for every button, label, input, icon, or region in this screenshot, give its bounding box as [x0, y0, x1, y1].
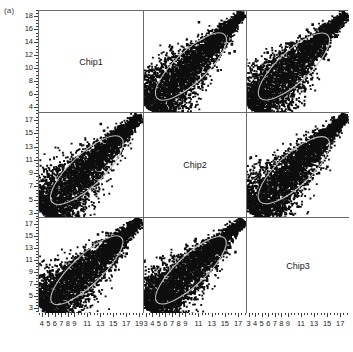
x-tick-label: 13 — [310, 320, 318, 328]
x-tick-label: 4 — [150, 320, 154, 328]
x-tick-label: 7 — [170, 320, 174, 328]
diagonal-panel-label: Chip3 — [247, 218, 349, 313]
x-tick-label: 7 — [273, 320, 277, 328]
y-tick-label: 5 — [29, 293, 33, 301]
x-tick-label: 17 — [336, 320, 344, 328]
panel-tag: (a) — [4, 6, 14, 15]
scatter-panel-chip1-vs-chip3 — [39, 218, 144, 313]
x-tick-label: 4 — [40, 320, 44, 328]
scatter-panel-chip2-vs-chip1 — [144, 11, 247, 113]
y-tick-label: 11 — [25, 257, 33, 265]
x-tick-label: 11 — [195, 320, 203, 328]
y-tick-label: 15 — [25, 232, 33, 240]
figure-root: (a) 468101214161835791113151735791113151… — [0, 0, 353, 352]
y-tick-label: 11 — [25, 156, 33, 164]
y-tick-label: 4 — [29, 103, 33, 111]
y-tick-label: 12 — [25, 51, 33, 59]
y-tick-label: 6 — [29, 90, 33, 98]
scatter-panel-chip3-vs-chip2 — [247, 113, 349, 218]
scatterplot-matrix: Chip1Chip2Chip3 — [38, 10, 348, 312]
diagonal-panel-chip3: Chip3 — [247, 218, 349, 313]
x-tick-label: 9 — [72, 320, 76, 328]
x-tick-label: 5 — [260, 320, 264, 328]
x-tick-label: 9 — [183, 320, 187, 328]
y-tick-label: 5 — [29, 196, 33, 204]
y-tick-label: 3 — [29, 305, 33, 313]
y-tick-label: 16 — [25, 26, 33, 34]
diagonal-panel-chip2: Chip2 — [144, 113, 247, 218]
x-tick-label: 6 — [266, 320, 270, 328]
y-tick-label: 7 — [29, 183, 33, 191]
x-tick-label: 15 — [221, 320, 229, 328]
x-tick-label: 7 — [59, 320, 63, 328]
x-tick-label: 9 — [286, 320, 290, 328]
y-tick-label: 15 — [25, 130, 33, 138]
y-tick-label: 17 — [25, 116, 33, 124]
y-tick-label: 3 — [29, 209, 33, 217]
x-tick-label: 3 — [144, 320, 148, 328]
diagonal-panel-label: Chip1 — [39, 11, 143, 112]
x-tick-label: 17 — [122, 320, 130, 328]
point-cloud — [39, 218, 143, 313]
point-cloud — [144, 218, 246, 313]
y-tick-label: 14 — [25, 39, 33, 47]
x-tick-label: 8 — [279, 320, 283, 328]
x-tick-label: 17 — [234, 320, 242, 328]
scatter-panel-chip3-vs-chip1 — [247, 11, 349, 113]
x-tick-label: 15 — [323, 320, 331, 328]
y-tick-label: 13 — [25, 143, 33, 151]
x-tick-label: 5 — [157, 320, 161, 328]
x-tick-label: 6 — [163, 320, 167, 328]
scatter-panel-chip2-vs-chip3 — [144, 218, 247, 313]
point-cloud — [144, 11, 246, 112]
point-cloud — [39, 113, 143, 217]
x-tick-label: 13 — [207, 320, 215, 328]
x-tick-label: 3 — [247, 320, 251, 328]
x-tick-label: 6 — [53, 320, 57, 328]
y-tick-label: 9 — [29, 169, 33, 177]
y-tick-label: 17 — [25, 220, 33, 228]
y-tick-label: 8 — [29, 77, 33, 85]
y-tick-label: 10 — [25, 64, 33, 72]
x-tick-label: 4 — [253, 320, 257, 328]
y-tick-label: 13 — [25, 245, 33, 253]
x-tick-label: 13 — [96, 320, 104, 328]
diagonal-panel-label: Chip2 — [144, 113, 246, 217]
point-cloud — [247, 113, 349, 217]
x-tick-label: 15 — [109, 320, 117, 328]
diagonal-panel-chip1: Chip1 — [39, 11, 144, 113]
x-tick-label: 19 — [135, 320, 143, 328]
y-tick-label: 7 — [29, 281, 33, 289]
y-tick-label: 18 — [25, 13, 33, 21]
x-tick-label: 8 — [66, 320, 70, 328]
scatter-panel-chip1-vs-chip2 — [39, 113, 144, 218]
x-tick-label: 8 — [177, 320, 181, 328]
x-tick-label: 11 — [83, 320, 91, 328]
point-cloud — [247, 11, 349, 112]
x-tick-label: 5 — [46, 320, 50, 328]
x-tick-label: 11 — [297, 320, 305, 328]
y-tick-label: 9 — [29, 269, 33, 277]
